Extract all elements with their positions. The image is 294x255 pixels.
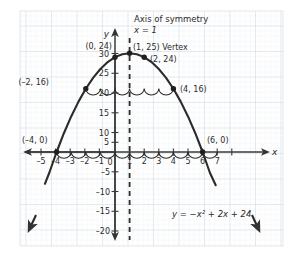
point-left-16 bbox=[83, 86, 88, 91]
xtick-label-1: 1 bbox=[127, 157, 132, 166]
ytick-label-25: 25 bbox=[99, 69, 109, 78]
point-y-intercept bbox=[112, 55, 117, 60]
equation-annotation: y = −x² + 2x + 24 bbox=[171, 209, 251, 219]
label-vertex: (1, 25) Vertex bbox=[133, 43, 188, 52]
label-left-16: (–2, 16) bbox=[18, 78, 49, 87]
xtick-label-6: 6 bbox=[200, 157, 205, 166]
ytick-label-5: 5 bbox=[104, 138, 109, 147]
ytick-label-m15: –15 bbox=[96, 207, 110, 216]
xtick-label-m3: –3 bbox=[66, 157, 75, 166]
xtick-label-7: 7 bbox=[215, 157, 220, 166]
ytick-label-10: 10 bbox=[99, 129, 109, 138]
point-right-16 bbox=[171, 86, 176, 91]
label-left-root: (–4, 0) bbox=[22, 136, 48, 145]
xtick-label-3: 3 bbox=[156, 157, 161, 166]
xtick-label-m2: –2 bbox=[80, 157, 89, 166]
label-right-24: (2, 24) bbox=[150, 55, 177, 64]
parabola-graph-figure: y x Axis of symmetry x = 1 y = −x² + 2x … bbox=[0, 0, 294, 255]
label-right-16: (4, 16) bbox=[180, 85, 207, 94]
xtick-label-5: 5 bbox=[185, 157, 190, 166]
axis-of-symmetry-equation: x = 1 bbox=[133, 25, 157, 35]
axis-of-symmetry-title: Axis of symmetry bbox=[134, 14, 208, 24]
xtick-label-m1: –1 bbox=[95, 157, 104, 166]
xtick-label-4: 4 bbox=[171, 157, 176, 166]
x-axis-label: x bbox=[271, 147, 278, 157]
origin-label: 0 bbox=[107, 158, 112, 167]
y-axis-label: y bbox=[103, 29, 110, 39]
xtick-label-m4: –4 bbox=[51, 157, 60, 166]
graph-canvas: y x Axis of symmetry x = 1 y = −x² + 2x … bbox=[0, 0, 294, 255]
ytick-label-20: 20 bbox=[99, 89, 109, 98]
ytick-label-m5: –5 bbox=[101, 168, 110, 177]
label-right-root: (6, 0) bbox=[207, 136, 229, 145]
ytick-label-m20: –20 bbox=[96, 227, 110, 236]
point-right-24 bbox=[142, 55, 147, 60]
ytick-label-15: 15 bbox=[99, 109, 109, 118]
point-right-root bbox=[200, 149, 205, 154]
xtick-label-2: 2 bbox=[142, 157, 147, 166]
ytick-label-m10: –10 bbox=[96, 188, 110, 197]
point-left-root bbox=[54, 149, 59, 154]
ytick-label-30: 30 bbox=[99, 50, 109, 59]
xtick-label-m5: –5 bbox=[36, 157, 45, 166]
point-vertex bbox=[127, 51, 132, 56]
